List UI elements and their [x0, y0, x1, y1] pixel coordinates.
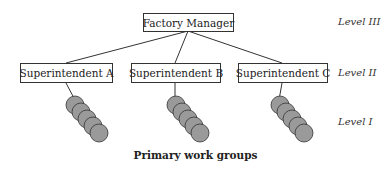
- superintendent-c-box: Superintendent C: [238, 63, 328, 83]
- work-group-a: [66, 96, 108, 142]
- superintendent-b-box: Superintendent B: [131, 63, 221, 83]
- superintendent-a-box: Superintendent A: [20, 63, 113, 83]
- caption: Primary work groups: [0, 149, 391, 161]
- work-group-b: [167, 96, 209, 142]
- level-iii-label: Level III: [338, 16, 380, 27]
- level-i-label: Level I: [338, 116, 372, 127]
- org-chart: Factory Manager Superintendent A Superin…: [0, 0, 391, 174]
- level-ii-label: Level II: [338, 67, 376, 78]
- factory-manager-box: Factory Manager: [143, 13, 234, 32]
- work-group-c: [271, 96, 313, 142]
